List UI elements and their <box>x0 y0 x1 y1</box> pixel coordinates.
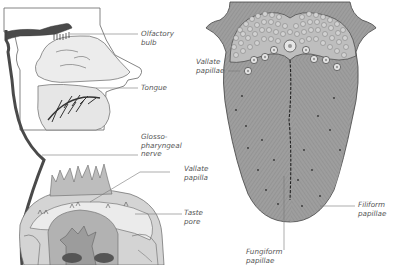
label-glossopharyngeal-line3: nerve <box>141 150 182 159</box>
label-olfactory-bulb-line2: bulb <box>141 39 174 48</box>
label-taste-pore-line2: pore <box>184 218 203 227</box>
label-fungiform-papillae-line2: papillae <box>246 257 282 265</box>
label-filiform-papillae-line2: papillae <box>358 210 386 219</box>
tongue-surface <box>206 2 376 222</box>
label-filiform-papillae: Filiform papillae <box>358 201 386 218</box>
label-vallate-papillae: Vallate papillae <box>196 58 224 75</box>
label-olfactory-bulb: Olfactory bulb <box>141 30 174 47</box>
label-glossopharyngeal-nerve: Glosso- pharyngeal nerve <box>141 133 182 159</box>
label-tongue: Tongue <box>141 84 167 93</box>
label-vallate-papilla: Vallate papilla <box>184 165 209 182</box>
vallate-papilla-section <box>20 164 165 265</box>
label-tongue-line1: Tongue <box>141 84 167 93</box>
label-vallate-papilla-line2: papilla <box>184 174 209 183</box>
label-fungiform-papillae: Fungiform papillae <box>246 248 282 265</box>
label-vallate-papillae-line2: papillae <box>196 67 224 76</box>
label-taste-pore: Taste pore <box>184 209 203 226</box>
